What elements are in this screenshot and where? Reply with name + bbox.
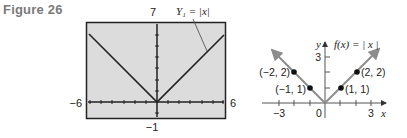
point-1-1 — [338, 85, 344, 91]
point-neg2-2 — [291, 69, 297, 75]
label-1-1: (1, 1) — [345, 83, 370, 95]
point-2-2 — [354, 69, 360, 75]
label-neg2-2: (−2, 2) — [259, 66, 290, 78]
xtick-0: 0 — [316, 107, 322, 119]
y-axis-label: y — [315, 38, 321, 50]
abs-function-graph: (−2, 2) (−1, 1) (1, 1) (2, 2) −3 0 3 3 x… — [0, 0, 407, 138]
ytick-3: 3 — [315, 51, 321, 63]
label-2-2: (2, 2) — [361, 66, 386, 78]
xtick-neg3: −3 — [273, 107, 285, 119]
xtick-3: 3 — [368, 107, 374, 119]
label-neg1-1: (−1, 1) — [275, 83, 306, 95]
point-neg1-1 — [307, 85, 313, 91]
function-label: f(x) = | x | — [334, 38, 379, 51]
x-axis-label: x — [380, 107, 386, 119]
